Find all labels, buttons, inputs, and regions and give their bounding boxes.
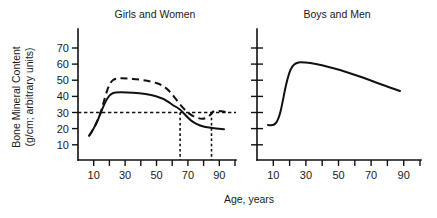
y-tick-label-10: 10 [57, 139, 69, 151]
panel-title-boys-and-men: Boys and Men [303, 8, 370, 20]
panel-title-girls-and-women: Girls and Women [115, 8, 196, 20]
y-axis-label: Bone Mineral Content (g/cm; arbitrary un… [10, 46, 35, 148]
y-tick-label-50: 50 [57, 74, 69, 86]
x-tick-label-10: 10 [88, 169, 100, 181]
x-tick-label-50: 50 [150, 169, 162, 181]
y-tick-label-40: 40 [57, 90, 69, 102]
right-x-ticks: 10 30 50 70 90 [267, 160, 420, 181]
panel-boys-and-men: Boys and Men 10 [251, 8, 421, 181]
x-axis-label: Age, years [224, 193, 274, 205]
panel-girls-and-women: Girls and Women 10 20 30 40 50 60 70 [57, 8, 236, 181]
y-axis-label-line2: (g/cm; arbitrary units) [23, 47, 35, 146]
x-tick-label-30: 30 [119, 169, 131, 181]
x-tick-label-30-right: 30 [300, 169, 312, 181]
y-tick-label-60: 60 [57, 58, 69, 70]
x-tick-label-90-right: 90 [398, 169, 410, 181]
series-male-bone-mineral-content-solid [268, 62, 400, 125]
x-tick-label-70-right: 70 [365, 169, 377, 181]
bone-mineral-content-figure: Bone Mineral Content (g/cm; arbitrary un… [0, 0, 437, 218]
y-tick-label-20: 20 [57, 123, 69, 135]
series-lower-peak-bone-mass-solid [89, 92, 224, 135]
left-y-ticks: 10 20 30 40 50 60 70 [57, 42, 78, 151]
x-tick-label-50-right: 50 [332, 169, 344, 181]
right-axis-lines [257, 29, 421, 160]
x-tick-label-70: 70 [182, 169, 194, 181]
left-x-ticks: 10 30 50 70 90 [88, 160, 235, 181]
x-tick-label-10-right: 10 [267, 169, 279, 181]
x-tick-label-90: 90 [213, 169, 225, 181]
y-tick-label-70: 70 [57, 42, 69, 54]
y-axis-label-line1: Bone Mineral Content [10, 46, 22, 148]
y-tick-label-30: 30 [57, 107, 69, 119]
